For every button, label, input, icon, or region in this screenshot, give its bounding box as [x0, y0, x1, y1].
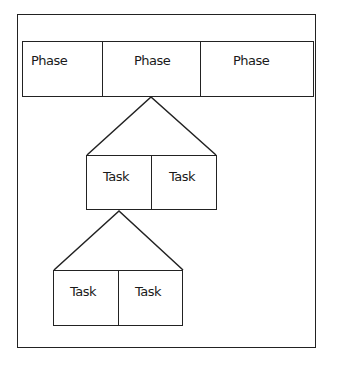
task-row-level-1: Task Task	[86, 155, 217, 210]
task-label: Task	[70, 284, 96, 299]
task-label: Task	[135, 284, 161, 299]
task-row-level-2: Task Task	[53, 270, 183, 326]
task-cell: Task	[152, 156, 216, 209]
task-cell: Task	[87, 156, 152, 209]
task-cell: Task	[54, 271, 119, 325]
task-label: Task	[103, 169, 129, 184]
task-cell: Task	[119, 271, 182, 325]
triangle-connector-2	[54, 211, 183, 270]
task-label: Task	[169, 169, 195, 184]
triangle-connector-1	[87, 97, 216, 155]
